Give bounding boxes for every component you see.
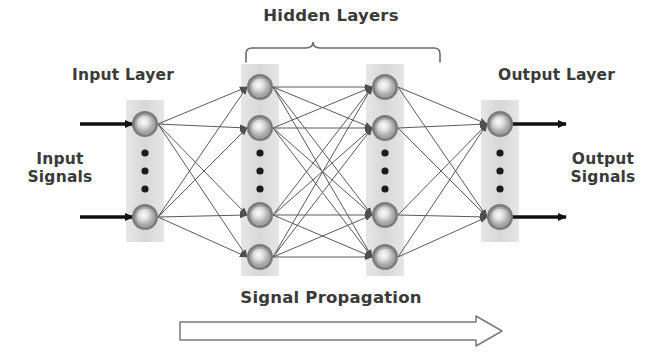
edge <box>158 87 247 124</box>
hidden-layers-label: Hidden Layers <box>0 6 662 25</box>
signal-propagation-arrow <box>180 316 502 346</box>
edge <box>398 87 487 124</box>
edge <box>158 124 247 128</box>
output-layer-label: Output Layer <box>498 66 615 84</box>
edge <box>398 124 487 215</box>
edge <box>158 215 247 217</box>
edge <box>398 124 487 128</box>
edge <box>158 124 247 215</box>
input-layer-label: Input Layer <box>72 66 174 84</box>
neuron-node <box>247 74 273 100</box>
neuron-node <box>247 244 273 270</box>
edge <box>158 128 247 217</box>
neuron-node <box>372 74 398 100</box>
edge <box>158 87 247 217</box>
hidden-layers-brace <box>246 42 440 62</box>
neuron-node <box>487 204 513 230</box>
neuron-node <box>132 111 158 137</box>
edge <box>398 87 487 217</box>
neural-network-diagram: Hidden Layers Input Layer Output Layer I… <box>0 0 662 352</box>
neuron-node <box>372 115 398 141</box>
connection-edges-group <box>158 87 487 257</box>
edge <box>398 215 487 217</box>
layer-bands-group <box>126 64 519 276</box>
input-signals-label: Input Signals <box>8 150 112 187</box>
output-signals-label: Output Signals <box>548 150 658 187</box>
neuron-node <box>132 204 158 230</box>
neuron-node <box>247 202 273 228</box>
neuron-node <box>487 111 513 137</box>
edge <box>398 128 487 217</box>
neuron-node <box>372 244 398 270</box>
signal-propagation-label: Signal Propagation <box>0 288 662 307</box>
neuron-node <box>372 202 398 228</box>
neuron-node <box>247 115 273 141</box>
